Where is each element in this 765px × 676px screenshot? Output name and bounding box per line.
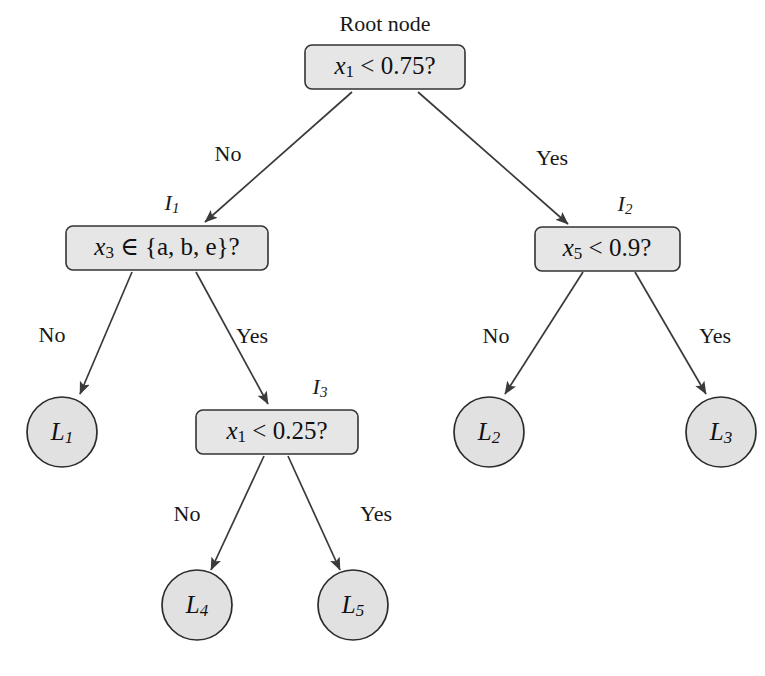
- edge-label-i1-yes: Yes: [236, 323, 268, 348]
- node-l1[interactable]: L1: [27, 397, 97, 467]
- edge-i3-to-l5: [288, 456, 340, 570]
- edge-label-i3-yes: Yes: [360, 501, 392, 526]
- l1-sym: L: [50, 418, 65, 445]
- i1-caption-sub: 1: [172, 200, 179, 216]
- edge-label-i2-yes: Yes: [699, 323, 731, 348]
- edge-label-i2-no: No: [483, 323, 510, 348]
- i3-cond-sub: 1: [238, 427, 247, 446]
- edge-label-i1-no: No: [39, 322, 66, 347]
- l3-sym: L: [709, 418, 724, 445]
- edge-label-root-no: No: [215, 141, 242, 166]
- i1-cond-rest: ∈ {a, b, e}?: [114, 233, 240, 260]
- i1-node-caption: I1: [164, 190, 180, 216]
- l5-sym: L: [341, 591, 356, 618]
- i3-caption-sub: 3: [319, 384, 327, 400]
- edge-i2-to-l2: [505, 272, 583, 394]
- i2-caption-sub: 2: [625, 201, 633, 217]
- i3-cond-var: x: [225, 417, 237, 444]
- i2-cond-var: x: [562, 234, 574, 261]
- node-l2[interactable]: L2: [454, 397, 524, 467]
- i1-cond-var: x: [93, 233, 105, 260]
- l1-sub: 1: [65, 428, 74, 447]
- l2-sym: L: [477, 418, 492, 445]
- i2-cond-sub: 5: [574, 244, 583, 263]
- decision-tree-canvas: Root node x1 < 0.75? I1 x3 ∈ {a, b, e}? …: [0, 0, 765, 676]
- root-cond-var: x: [333, 52, 345, 79]
- node-l4[interactable]: L4: [162, 570, 232, 640]
- i1-node-condition: x3 ∈ {a, b, e}?: [93, 233, 239, 262]
- node-i2[interactable]: I2 x5 < 0.9?: [535, 191, 680, 271]
- root-node-caption: Root node: [339, 11, 430, 36]
- edge-i1-to-l1: [80, 272, 132, 394]
- i3-node-caption: I3: [312, 374, 328, 400]
- edge-i2-to-l3: [635, 272, 706, 394]
- edge-i3-to-l4: [211, 456, 264, 570]
- node-l5[interactable]: L5: [318, 570, 388, 640]
- i3-cond-rest: < 0.25?: [246, 417, 327, 444]
- node-i1[interactable]: I1 x3 ∈ {a, b, e}?: [66, 190, 268, 270]
- edge-label-i3-no: No: [174, 501, 201, 526]
- l2-sub: 2: [492, 428, 501, 447]
- l3-sub: 3: [723, 428, 733, 447]
- decision-tree-figure: Root node x1 < 0.75? I1 x3 ∈ {a, b, e}? …: [0, 0, 765, 676]
- edges-layer: [80, 92, 706, 570]
- edge-labels-layer: No Yes No Yes No Yes No Yes: [39, 141, 731, 526]
- node-l3[interactable]: L3: [686, 397, 756, 467]
- root-cond-rest: < 0.75?: [354, 52, 435, 79]
- node-i3[interactable]: I3 x1 < 0.25?: [196, 374, 358, 454]
- edge-label-root-yes: Yes: [536, 145, 568, 170]
- root-cond-sub: 1: [346, 62, 355, 81]
- l5-sub: 5: [356, 601, 365, 620]
- i2-cond-rest: < 0.9?: [582, 234, 651, 261]
- i1-cond-sub: 3: [105, 243, 114, 262]
- l4-sym: L: [185, 591, 200, 618]
- i2-node-caption: I2: [617, 191, 633, 217]
- node-root[interactable]: Root node x1 < 0.75?: [305, 11, 465, 89]
- l4-sub: 4: [200, 601, 209, 620]
